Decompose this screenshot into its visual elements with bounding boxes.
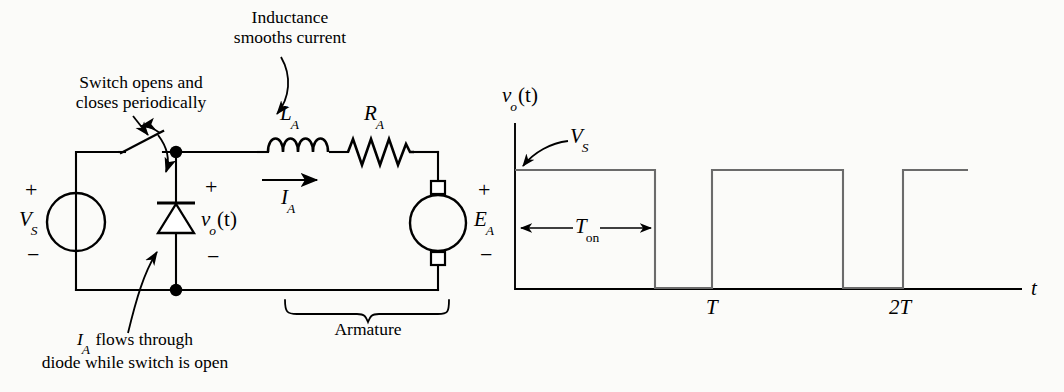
junction-dot-top xyxy=(170,146,182,158)
inductor-symbol xyxy=(268,139,328,153)
output-voltage-label: vo(t) xyxy=(201,208,237,234)
switch-note-line2: closes periodically xyxy=(46,93,236,113)
armature-label: Armature xyxy=(303,320,433,340)
waveform-y-axis-subscript: o xyxy=(510,99,517,114)
resistor-subscript: A xyxy=(376,117,384,132)
inductance-note-line2: smooths current xyxy=(200,28,380,48)
diode-note-line1-text: flows through xyxy=(91,329,193,349)
motor-symbol xyxy=(410,181,466,265)
waveform-tick-2T-text: 2T xyxy=(889,295,911,319)
inductor-symbol-text: L xyxy=(280,101,292,125)
output-voltage-arg: (t) xyxy=(217,207,237,231)
resistor-symbol xyxy=(348,139,414,165)
emf-plus-sign: + xyxy=(478,178,490,203)
vs-callout-leader-icon xyxy=(523,141,568,166)
waveform-x-axis-label: t xyxy=(1031,277,1037,301)
inductance-note: Inductance smooths current xyxy=(200,8,380,47)
switch-motion-arrow-icon xyxy=(141,126,168,172)
waveform-amplitude-label: VS xyxy=(570,125,590,151)
output-minus-sign: − xyxy=(207,245,219,270)
resistor-symbol-text: R xyxy=(364,101,377,125)
source-label: VS xyxy=(19,208,39,234)
diode-note-line1: IA flows through xyxy=(10,330,260,353)
resistor-label: RA xyxy=(364,102,385,128)
source-subscript: S xyxy=(31,223,38,238)
diode-symbol xyxy=(157,203,195,233)
source-minus-sign: − xyxy=(27,243,39,268)
waveform-ton-subscript: on xyxy=(586,230,600,245)
figure-canvas: Switch opens and closes periodically Ind… xyxy=(0,0,1064,392)
source-plus-sign: + xyxy=(25,178,37,203)
waveform-y-axis-arg: (t) xyxy=(518,83,538,107)
switch-note-line1: Switch opens and xyxy=(46,73,236,93)
waveform-tick-label-2T: 2T xyxy=(889,296,911,320)
output-voltage-subscript: o xyxy=(209,223,216,238)
current-label: IA xyxy=(281,186,296,212)
emf-label: EA xyxy=(474,208,495,234)
emf-minus-sign: − xyxy=(480,243,492,268)
waveform-ton-label: Ton xyxy=(575,215,600,241)
diode-note: IA flows through diode while switch is o… xyxy=(10,330,260,372)
inductor-subscript: A xyxy=(291,117,299,132)
junction-dot-bottom xyxy=(170,284,182,296)
waveform-ton-symbol: T xyxy=(575,214,587,238)
switch-note: Switch opens and closes periodically xyxy=(46,73,236,112)
output-plus-sign: + xyxy=(205,175,217,200)
current-subscript: A xyxy=(287,201,295,216)
waveform-y-axis-label: vo(t) xyxy=(502,84,538,110)
inductance-note-line1: Inductance xyxy=(200,8,380,28)
diode-note-leader-icon xyxy=(128,252,157,333)
emf-symbol-text: E xyxy=(474,207,487,231)
diode-note-current-subscript: A xyxy=(82,342,90,357)
source-symbol: V xyxy=(19,207,32,231)
waveform-amplitude-symbol: V xyxy=(570,124,583,148)
emf-subscript: A xyxy=(486,223,494,238)
inductor-label: LA xyxy=(280,102,300,128)
waveform-axes xyxy=(515,123,1022,290)
waveform-amplitude-subscript: S xyxy=(582,140,589,155)
diode-note-line2: diode while switch is open xyxy=(10,353,260,373)
waveform-tick-label-T: T xyxy=(706,296,718,320)
